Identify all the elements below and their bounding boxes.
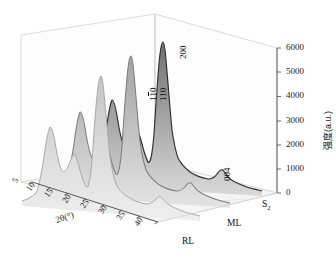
z-tick-label-1: 1000 bbox=[286, 164, 304, 173]
peak-label-004: 004 bbox=[223, 168, 232, 182]
peak-label-110: 110 bbox=[159, 88, 168, 101]
series-label-s2-subscript: 2 bbox=[267, 204, 270, 211]
z-axis-title: 强度(a.u.) bbox=[321, 111, 334, 150]
peak-label-1bar10-bar: 1 bbox=[149, 92, 158, 97]
z-tick-label-5: 5000 bbox=[286, 67, 304, 76]
z-tick-label-3: 3000 bbox=[286, 116, 304, 125]
peak-label-200: 200 bbox=[179, 46, 188, 60]
series-label-s2: S2 bbox=[262, 200, 271, 211]
z-tick-marks bbox=[277, 48, 281, 193]
series-label-rl: RL bbox=[182, 237, 194, 247]
series-label-ml: ML bbox=[227, 219, 241, 229]
z-tick-label-6: 6000 bbox=[286, 43, 304, 52]
z-tick-label-0: 0 bbox=[286, 188, 291, 197]
xrd-waterfall-figure: 5 10 15 20 25 30 35 40 2θ(°) 0 1000 2000… bbox=[0, 0, 336, 276]
peak-label-1bar10-first: 1 bbox=[148, 97, 158, 102]
z-tick-label-2: 2000 bbox=[286, 140, 304, 149]
z-tick-label-4: 4000 bbox=[286, 91, 304, 100]
peak-label-1bar10: 110 bbox=[149, 88, 158, 102]
